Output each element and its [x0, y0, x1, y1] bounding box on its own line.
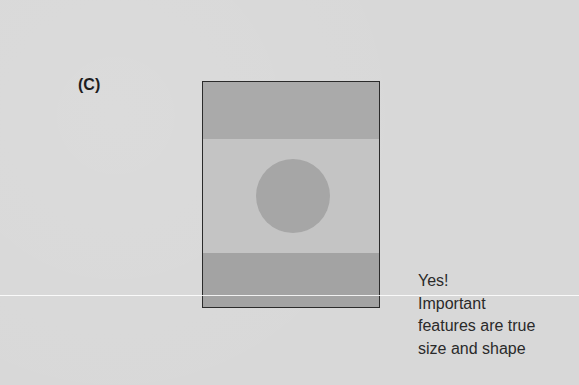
panel-label: (C) [78, 76, 100, 94]
top-band [203, 82, 379, 139]
bottom-band [203, 253, 379, 307]
caption-line: features are true [418, 315, 535, 338]
diagram-rectangle [202, 81, 380, 308]
scan-artifact-line [0, 295, 579, 296]
center-circle [256, 159, 330, 233]
caption: Yes! Important features are true size an… [418, 270, 535, 360]
caption-line: size and shape [418, 338, 535, 361]
caption-line: Yes! [418, 270, 535, 293]
